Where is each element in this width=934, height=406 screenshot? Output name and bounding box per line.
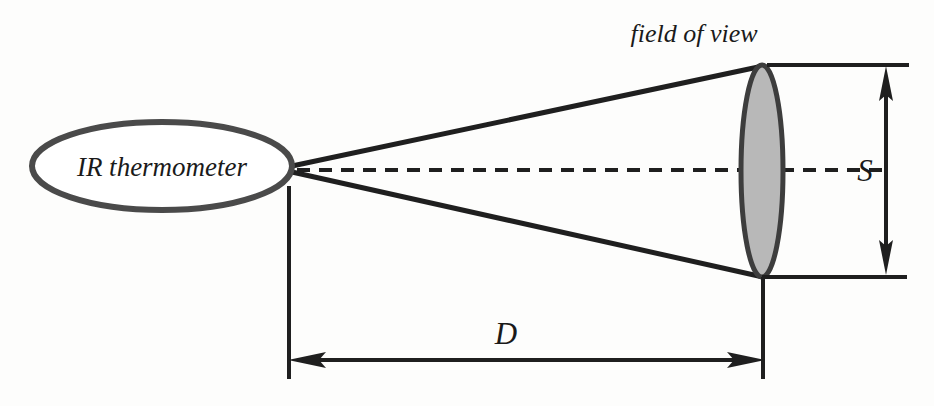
field-of-view-label: field of view [630, 19, 758, 48]
ir-thermometer-fov-diagram: IR thermometer field of view S D [0, 0, 934, 406]
cone-lower-ray [292, 172, 763, 277]
ir-thermometer-label: IR thermometer [76, 152, 248, 182]
distance-label: D [494, 316, 517, 351]
target-spot-ellipse [741, 65, 783, 277]
cone-upper-ray [292, 66, 763, 166]
spot-size-label-s: S [857, 153, 873, 188]
distance-extension-lines [289, 186, 763, 379]
diagram-canvas: IR thermometer field of view S D [0, 0, 934, 406]
distance-dimension-arrow [288, 352, 765, 368]
